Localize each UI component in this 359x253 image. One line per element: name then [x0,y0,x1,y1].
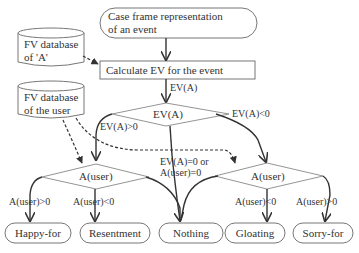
calculate-ev-label: Calculate EV for the event [106,64,223,76]
edge-ev-zero [170,126,172,155]
edge-right-zero [181,176,218,220]
edge-label-ev-pos: EV(A)>0 [100,121,138,133]
start-node-line2: of an event [108,23,157,35]
auser-right-decision: A(user) [215,163,323,189]
outcome-nothing-label: Nothing [173,227,210,239]
edge-label-right-pos: A(user)>0 [296,196,337,208]
fv-database-user-line1: FV database [24,91,79,103]
edge-label-ev: EV(A) [170,82,197,94]
edge-dbuser-to-left [63,120,82,163]
calculate-ev-box: Calculate EV for the event [100,61,255,79]
ev-decision-label: EV(A) [153,108,183,121]
outcome-happy-for-label: Happy-for [15,227,61,239]
fv-database-a-line2: of 'A' [24,51,48,63]
edge-dba-to-calc [83,56,98,64]
outcome-happy-for: Happy-for [5,223,71,243]
outcome-sorry-for-label: Sorry-for [303,227,344,239]
flowchart: Case frame representation of an event FV… [0,0,359,253]
edge-label-ev-neg: EV(A)<0 [232,108,270,120]
start-node-line1: Case frame representation [108,10,223,22]
outcome-nothing: Nothing [159,223,223,243]
outcome-gloating-label: Gloating [236,227,275,239]
edge-label-left-pos: A(user)>0 [9,196,50,208]
auser-left-label: A(user) [79,170,113,183]
auser-left-decision: A(user) [42,164,149,189]
edge-ev-neg [216,114,266,162]
auser-right-label: A(user) [251,170,285,183]
outcome-gloating: Gloating [225,223,285,243]
fv-database-a: FV database of 'A' [18,28,84,66]
outcome-sorry-for: Sorry-for [293,223,353,243]
fv-database-user: FV database of the user [18,81,84,118]
start-node: Case frame representation of an event [100,8,257,38]
outcome-resentment: Resentment [80,223,150,243]
edge-label-left-neg: A(user)<0 [73,196,114,208]
edge-label-ev-zero-2: A(user)=0 [160,167,201,179]
outcome-resentment-label: Resentment [89,227,141,239]
edge-label-right-neg: A(user)<0 [235,196,276,208]
fv-database-user-line2: of the user [24,104,71,116]
fv-database-a-line1: FV database [24,38,79,50]
